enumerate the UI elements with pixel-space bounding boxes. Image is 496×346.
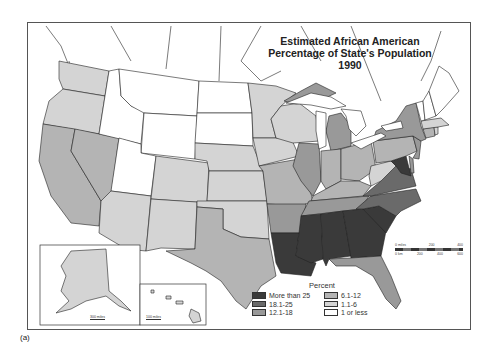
scale-miles-0: 0 miles bbox=[395, 243, 406, 247]
scale-bar-graphic bbox=[395, 248, 463, 251]
legend-label: 18.1-25 bbox=[269, 301, 293, 308]
legend-item-6-12: 6.1-12 bbox=[324, 292, 384, 299]
legend-item-1-6: 1.1-6 bbox=[324, 301, 384, 308]
scale-miles-200: 200 bbox=[429, 243, 435, 247]
state-new-mexico bbox=[146, 199, 197, 251]
state-colorado bbox=[151, 156, 209, 203]
legend-label: 1 or less bbox=[341, 309, 367, 316]
alaska-scale-label: 300 miles bbox=[90, 315, 105, 320]
legend-swatch bbox=[252, 301, 266, 308]
map-title: Estimated African American Percentage of… bbox=[255, 35, 445, 71]
hawaii-scale-label: 100 miles bbox=[146, 315, 161, 320]
state-wyoming bbox=[141, 113, 197, 159]
scale-km-0: 0 km bbox=[395, 252, 403, 256]
title-line-2: Percentage of State's Population bbox=[255, 47, 445, 59]
legend-item-18-25: 18.1-25 bbox=[252, 301, 324, 308]
figure-caption: (a) bbox=[20, 333, 30, 342]
scale-km-600: 600 bbox=[457, 252, 463, 256]
legend-swatch bbox=[324, 309, 338, 316]
legend-swatch bbox=[324, 301, 338, 308]
legend-label: 6.1-12 bbox=[341, 292, 361, 299]
legend-label: 1.1-6 bbox=[341, 301, 357, 308]
title-line-1: Estimated African American bbox=[255, 35, 445, 47]
legend-label: 12.1-18 bbox=[269, 309, 293, 316]
state-arizona bbox=[99, 191, 151, 251]
scale-miles-400: 400 bbox=[457, 243, 463, 247]
scale-bar: 0 miles 200 400 0 km 200 400 600 bbox=[395, 243, 463, 259]
legend-title: Percent bbox=[252, 281, 382, 290]
lake-michigan bbox=[316, 111, 326, 149]
legend: Percent More than 25 6.1-12 18.1-25 1.1-… bbox=[252, 281, 382, 316]
legend-item-12-18: 12.1-18 bbox=[252, 309, 324, 316]
state-kansas bbox=[207, 171, 267, 201]
scale-km-400: 400 bbox=[437, 252, 443, 256]
legend-item-more-than-25: More than 25 bbox=[252, 292, 324, 299]
legend-swatch bbox=[252, 292, 266, 299]
state-rhode-island bbox=[434, 127, 438, 135]
state-north-dakota bbox=[197, 81, 252, 113]
title-line-3: 1990 bbox=[255, 59, 445, 71]
legend-swatch bbox=[252, 309, 266, 316]
legend-swatch bbox=[324, 292, 338, 299]
scale-km-200: 200 bbox=[417, 252, 423, 256]
legend-label: More than 25 bbox=[269, 292, 310, 299]
state-south-dakota bbox=[195, 113, 253, 146]
legend-item-1-or-less: 1 or less bbox=[324, 309, 384, 316]
